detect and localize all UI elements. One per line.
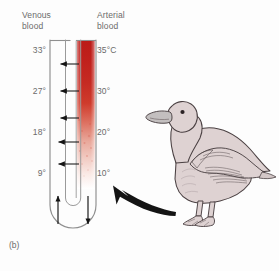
countercurrent-heat-exchange-figure: Venous blood Arterial blood 33° 27° 18° … xyxy=(0,0,279,271)
duck-illustration-icon xyxy=(146,102,276,227)
duck-feet xyxy=(183,216,215,227)
pointer-arrow xyxy=(113,186,176,217)
figure-drawing xyxy=(0,0,279,271)
duck-eye xyxy=(180,110,184,114)
flow-direction-arrows xyxy=(58,196,88,224)
venous-channel xyxy=(50,40,71,41)
